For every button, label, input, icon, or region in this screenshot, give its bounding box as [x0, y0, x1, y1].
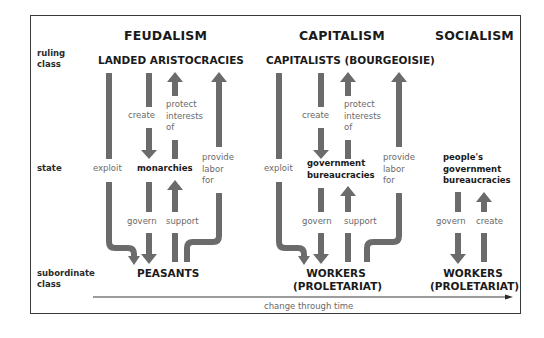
feudal-provide-label: provide labor for — [202, 152, 234, 187]
feudal-ruling-class: LANDED ARISTOCRACIES — [98, 54, 244, 66]
capital-provide-label: provide labor for — [383, 152, 415, 187]
row-label-ruling-class: ruling class — [37, 48, 65, 70]
social-govern-label: govern — [436, 216, 466, 228]
capital-support-label: support — [344, 216, 377, 228]
capital-ruling-class: CAPITALISTS (BOURGEOISIE) — [266, 54, 435, 66]
feudal-support-label: support — [166, 216, 199, 228]
feudal-create-label: create — [128, 110, 155, 122]
row-label-state: state — [37, 163, 62, 174]
feudal-exploit-label: exploit — [93, 163, 122, 175]
socialism-title: SOCIALISM — [435, 28, 514, 43]
timeline-label: change through time — [264, 301, 353, 313]
capital-subordinate-class: WORKERS (PROLETARIAT) — [293, 267, 379, 293]
feudal-subordinate-class: PEASANTS — [137, 267, 199, 279]
capitalism-title: CAPITALISM — [299, 28, 385, 43]
capital-state: government bureaucracies — [307, 158, 375, 181]
feudal-state: monarchies — [137, 163, 193, 175]
social-state: people's government bureaucracies — [443, 152, 511, 187]
capital-govern-label: govern — [302, 216, 332, 228]
timeline-arrow — [93, 295, 513, 300]
feudal-govern-label: govern — [127, 216, 157, 228]
row-label-subordinate-class: subordinate class — [37, 268, 95, 290]
capital-protect-label: protect interests of — [344, 99, 381, 134]
feudalism-title: FEUDALISM — [124, 28, 207, 43]
capital-exploit-label: exploit — [264, 163, 293, 175]
feudal-protect-label: protect interests of — [166, 99, 203, 134]
social-subordinate-class: WORKERS (PROLETARIAT) — [430, 267, 516, 293]
social-govern-arrow — [450, 192, 466, 264]
capital-create-label: create — [302, 110, 329, 122]
social-create-label: create — [476, 216, 503, 228]
